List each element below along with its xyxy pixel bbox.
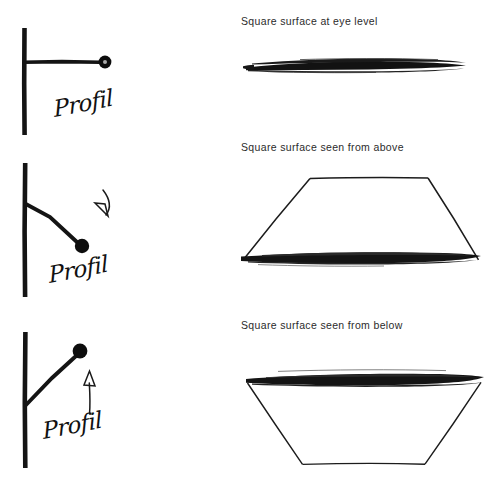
trapezoid-below-top-highlight-1: [266, 374, 479, 378]
sight-ray-line-3: [25, 356, 76, 406]
trapezoid-below-left-edge: [248, 383, 303, 464]
trapezoid-below-top-highlight-2: [252, 382, 482, 387]
shape-square-from-below: [246, 370, 484, 465]
edge-on-stroke-tail-left: [243, 65, 254, 70]
vertical-profile-line-3: [25, 332, 26, 468]
caption-square-surface-seen-from-below: Square surface seen from below: [241, 320, 403, 331]
trapezoid-below-top-wisp: [278, 370, 446, 372]
profil-label-eye-level: Profil: [53, 85, 114, 122]
shape-square-from-above: [241, 177, 481, 266]
eye-position-dot-1: [99, 56, 112, 69]
trapezoid-below-right-edge: [425, 382, 481, 464]
trapezoid-above-bottom-edge: [241, 252, 481, 263]
edge-on-stroke-main: [246, 62, 466, 71]
caption-square-surface-at-eye-level: Square surface at eye level: [241, 16, 378, 27]
curved-down-arrow-head: [95, 203, 108, 216]
straight-up-arrow-head: [84, 371, 95, 386]
profile-diagram-from-below: [25, 332, 95, 468]
profil-label-from-above: Profil: [48, 251, 109, 288]
trapezoid-above-bottom-highlight-1: [262, 253, 474, 257]
caption-square-surface-seen-from-above: Square surface seen from above: [241, 142, 404, 153]
trapezoid-above-bottom-wisp: [258, 265, 384, 267]
trapezoid-below-bottom-edge: [303, 463, 426, 464]
eye-position-dot-3: [73, 344, 88, 359]
edge-on-stroke-lower: [248, 69, 464, 73]
sight-ray-line-1: [23, 62, 100, 63]
perspective-figure: Profil Profil Profil: [0, 0, 496, 487]
trapezoid-above-bottom-highlight-2: [248, 260, 478, 265]
vertical-profile-line-2: [25, 163, 26, 297]
profil-label-from-below: Profil: [42, 407, 103, 444]
trapezoid-above-top-edge: [310, 177, 428, 178]
edge-on-stroke-wisp-2: [300, 59, 438, 60]
edge-on-stroke-wisp-1: [268, 72, 376, 73]
shape-square-edge-on: [243, 59, 466, 73]
trapezoid-above-right-edge: [428, 178, 479, 260]
eye-position-dot-2: [75, 239, 89, 253]
curved-down-arrow-shaft: [103, 190, 110, 215]
sight-ray-line-2: [24, 203, 78, 243]
edge-on-stroke-upper: [252, 59, 466, 65]
trapezoid-below-top-edge: [246, 374, 484, 386]
trapezoid-above-left-edge: [244, 179, 311, 260]
